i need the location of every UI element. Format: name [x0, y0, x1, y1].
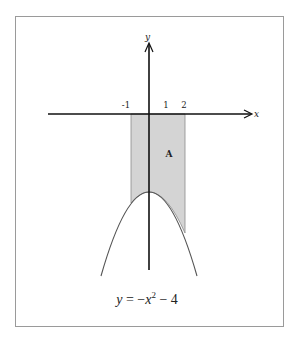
graph-canvas: x y -1 1 2 A: [0, 0, 294, 339]
tick-label-2: 2: [181, 100, 186, 110]
curve-equation: y = −x2 − 4: [0, 290, 294, 308]
tick-label-neg1: -1: [122, 100, 130, 110]
tick-label-1: 1: [163, 100, 168, 110]
region-label-a: A: [165, 149, 174, 159]
equation-rest: − 4: [156, 292, 178, 307]
x-axis-label: x: [254, 109, 259, 119]
y-axis-label: y: [144, 32, 151, 42]
equation-eq: = −: [122, 292, 145, 307]
shaded-region-a: [131, 114, 185, 233]
diagram-stage: x y -1 1 2 A y = −x2 − 4: [0, 0, 294, 339]
